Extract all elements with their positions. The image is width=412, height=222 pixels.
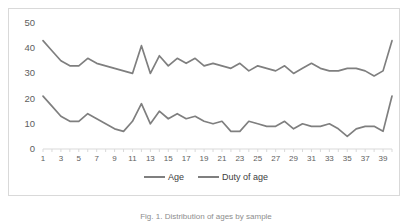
legend-label-age: Age [168,172,184,182]
legend-line-swatch-duty-of-age [198,176,219,178]
x-tick-label: 15 [164,154,173,163]
series-line-duty-of-age [43,96,392,136]
y-tick-label: 30 [13,68,35,78]
x-tick-label: 13 [146,154,155,163]
legend-label-duty-of-age: Duty of age [222,172,268,182]
x-tick-label: 35 [343,154,352,163]
y-tick-label: 40 [13,43,35,53]
chart-frame: 01020304050 1357911131517192123252729313… [8,8,400,196]
series-line-age [43,41,392,76]
legend-line-swatch-age [144,176,165,178]
x-tick-label: 9 [112,154,116,163]
x-tick-label: 7 [94,154,98,163]
x-tick-label: 31 [307,154,316,163]
x-tick-label: 19 [200,154,209,163]
y-tick-label: 0 [13,144,35,154]
x-tick-label: 39 [379,154,388,163]
legend-item-duty-of-age: Duty of age [198,172,268,182]
x-tick-label: 1 [41,154,45,163]
x-tick-label: 33 [325,154,334,163]
figure-container: 01020304050 1357911131517192123252729313… [0,0,412,222]
x-tick-label: 3 [59,154,63,163]
x-tick-label: 17 [182,154,191,163]
line-chart-plot [9,9,401,197]
x-tick-label: 23 [235,154,244,163]
x-tick-label: 11 [128,154,136,163]
y-tick-label: 20 [13,94,35,104]
x-tick-label: 21 [218,154,227,163]
x-tick-label: 27 [271,154,280,163]
x-tick-label: 29 [289,154,298,163]
legend-item-age: Age [144,172,184,182]
chart-legend: Age Duty of age [0,172,412,182]
x-tick-label: 37 [361,154,370,163]
y-tick-label: 50 [13,18,35,28]
x-tick-label: 5 [77,154,81,163]
figure-caption: Fig. 1. Distribution of ages by sample [0,212,412,221]
y-tick-label: 10 [13,119,35,129]
x-tick-label: 25 [253,154,262,163]
